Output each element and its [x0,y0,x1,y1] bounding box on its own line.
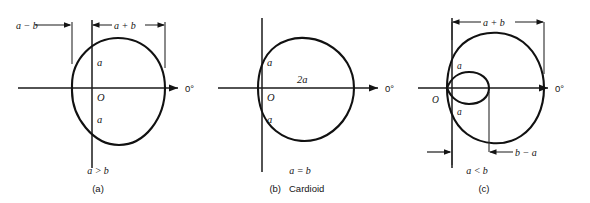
panel-b-axis-arrow-icon [369,85,378,92]
panel-c-origin-label: O [432,95,439,105]
panel-b-upper-intercept-label: a [267,57,272,68]
panel-c-dim-arrow-small-icon [444,149,452,155]
panel-a-dim-label-a-plus-b: a + b [114,20,136,31]
panel-a-axis-label: 0° [185,83,194,94]
panel-b-axis-label: 0° [385,83,394,94]
panel-c-dim-arrow-left-icon [452,19,460,25]
panel-c-axis-label: 0° [555,83,564,94]
panel-c-upper-intercept-label: a [457,61,462,71]
panel-b-diameter-label: 2a [297,74,308,85]
panel-b-lower-intercept-label: a [267,114,272,125]
panel-a-dim-label-a-minus-b: a − b [16,20,38,31]
panel-b-cardioid-curve [258,38,354,141]
panel-a-lower-intercept-label: a [97,114,102,125]
panel-a-dim-arrow-right-icon [64,22,72,28]
panel-a-caption-condition: a > b [87,165,109,176]
panel-c-caption-id: (c) [478,183,489,194]
panel-a-origin-label: O [97,92,105,103]
panel-c-dim-label-a-plus-b: a + b [483,17,505,28]
panel-a-axis-arrow-icon [169,85,178,92]
panel-a-dim-arrow-right2-icon [158,22,166,28]
panel-a: 0° a O a a − b a + b a > b (a) [16,18,194,194]
panel-c-dim-arrow-bminusa-icon [489,149,497,155]
panel-a-limacon-curve [72,38,165,145]
panel-b-caption-id: (b) [269,183,281,194]
panel-b-caption-condition: a = b [289,165,311,176]
panel-c: 0° a O a a + b [418,15,564,194]
limacon-figure-svg: 0° a O a a − b a + b a > b (a) [0,0,590,203]
panel-b-caption-name: Cardioid [289,183,324,194]
panel-c-dim-label-b-minus-a: b − a [515,147,537,158]
panel-a-dim-arrow-left-icon [92,22,100,28]
figure-container: 0° a O a a − b a + b a > b (a) [0,0,590,203]
panel-c-dim-arrow-right-icon [537,19,545,25]
panel-a-caption-id: (a) [92,183,104,194]
panel-c-caption-condition: a < b [466,165,488,176]
panel-c-lower-intercept-label: a [457,107,462,117]
panel-b-origin-label: O [267,92,275,103]
panel-a-upper-intercept-label: a [97,57,102,68]
panel-b: 0° a O a 2a a = b (b) Cardioid [218,18,394,194]
